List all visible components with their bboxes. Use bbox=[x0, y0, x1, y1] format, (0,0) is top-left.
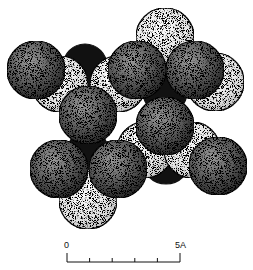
dark-sphere bbox=[7, 41, 65, 99]
dark-sphere bbox=[89, 140, 147, 198]
scale-bar bbox=[67, 253, 180, 262]
dark-sphere bbox=[108, 41, 166, 99]
dark-sphere bbox=[30, 140, 88, 198]
dark-sphere bbox=[59, 86, 117, 144]
scale-start-label: 0 bbox=[64, 241, 69, 250]
scale-end-label: 5A bbox=[175, 241, 186, 250]
dark-sphere bbox=[189, 137, 247, 195]
dark-sphere bbox=[136, 97, 194, 155]
dark-sphere bbox=[166, 41, 224, 99]
sphere-packing-diagram bbox=[0, 0, 253, 270]
dark-sphere-layer bbox=[7, 41, 247, 198]
